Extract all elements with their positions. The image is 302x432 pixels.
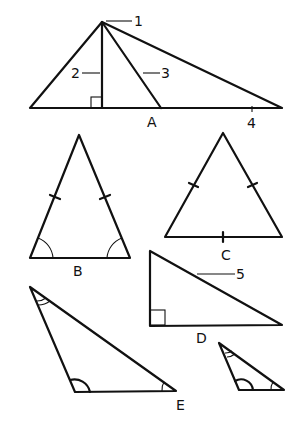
triangle-c: C bbox=[165, 133, 282, 263]
label-b: B bbox=[73, 263, 83, 279]
angle-arc-right bbox=[107, 238, 122, 258]
label-c: C bbox=[221, 247, 231, 263]
label-1: 1 bbox=[134, 13, 143, 29]
double-arc-1 bbox=[36, 298, 46, 301]
label-a: A bbox=[147, 114, 157, 130]
double-arc-2 bbox=[38, 301, 50, 305]
triangle-b: B bbox=[30, 135, 130, 279]
right-angle-mark bbox=[150, 310, 165, 325]
label-4: 4 bbox=[247, 115, 256, 131]
triangles-diagram: 1 2 3 A 4 B C 5 D E bbox=[0, 0, 302, 432]
triangle-d: 5 D bbox=[150, 251, 282, 346]
triangle-small bbox=[219, 343, 284, 390]
angle-arc-thin bbox=[162, 382, 164, 391]
angle-arc-thin bbox=[271, 382, 273, 390]
label-5: 5 bbox=[236, 266, 245, 282]
label-3: 3 bbox=[161, 65, 170, 81]
right-angle-mark bbox=[91, 97, 102, 108]
triangle-e: E bbox=[30, 287, 185, 413]
triangle-a: 1 2 3 A 4 bbox=[30, 13, 282, 131]
label-2: 2 bbox=[71, 65, 80, 81]
double-arc-2 bbox=[227, 354, 235, 357]
label-d: D bbox=[196, 330, 207, 346]
label-e: E bbox=[176, 397, 185, 413]
angle-arc-left bbox=[38, 238, 53, 258]
